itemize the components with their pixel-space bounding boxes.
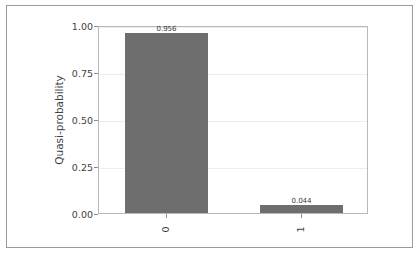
x-tick-label-text: 1 [295,226,306,232]
y-tick-label: 1.00 [72,21,93,32]
bar-category-0[interactable] [125,33,207,213]
screenshot-root: Quasi-probability 1.00 0.75 0.50 0.25 0.… [0,0,420,255]
y-tick-label: 0.75 [72,68,93,79]
x-tick-label-0: 0 [155,219,177,239]
x-tick-label-1: 1 [290,219,312,239]
bar-value-label-1: 0.044 [272,197,332,205]
y-tick-label: 0.50 [72,115,93,126]
y-tick-label: 0.00 [72,209,93,220]
x-tick-mark [301,214,302,218]
x-axis-tick-labels: 0 1 [98,219,368,241]
y-tick-label: 0.25 [72,162,93,173]
y-axis-tick-labels: 1.00 0.75 0.50 0.25 0.00 [62,26,93,214]
x-tick-label-text: 0 [160,226,171,232]
bar-category-1[interactable] [260,205,342,213]
quasi-probability-bar-chart: Quasi-probability 1.00 0.75 0.50 0.25 0.… [0,0,420,255]
plot-area: 0.956 0.044 [98,26,368,214]
bars-layer [99,27,367,213]
bar-value-label-0: 0.956 [137,25,197,33]
x-tick-mark [166,214,167,218]
